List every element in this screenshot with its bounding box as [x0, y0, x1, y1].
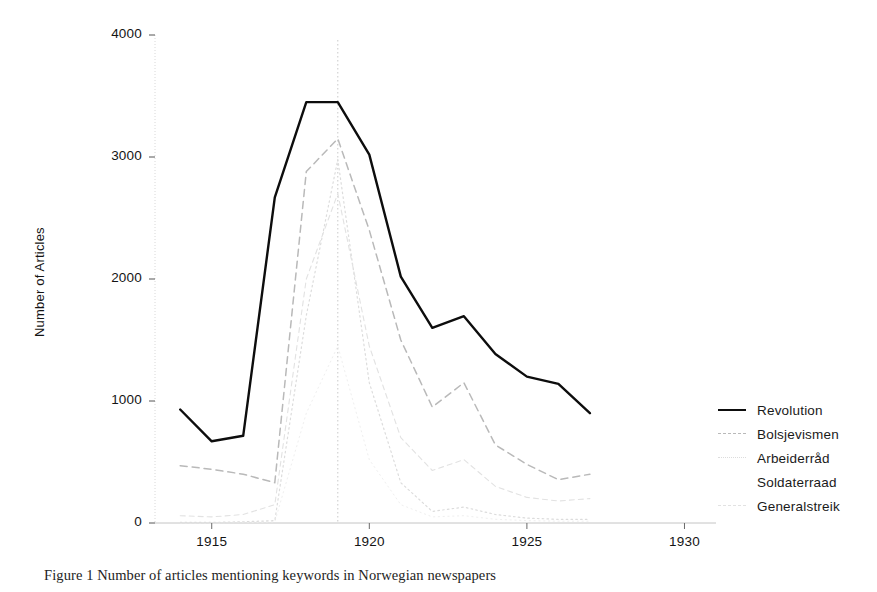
legend-label: Bolsjevismen [757, 427, 839, 442]
y-tick-label: 4000 [60, 26, 142, 41]
x-tick-label: 1925 [492, 534, 562, 549]
series-line-revolution [180, 102, 590, 441]
y-axis-label: Number of Articles [32, 227, 47, 337]
axis-ticks [149, 35, 684, 529]
y-tick-label: 0 [60, 514, 142, 529]
legend-swatch-icon [718, 404, 746, 416]
figure-caption: Figure 1 Number of articles mentioning k… [44, 566, 834, 592]
y-tick-label: 2000 [60, 270, 142, 285]
series-line-generalstreik [180, 194, 590, 517]
legend-label: Arbeiderråd [757, 451, 830, 466]
x-tick-label: 1930 [649, 534, 719, 549]
figure-container: Number of Articles 01000200030004000 191… [0, 0, 877, 592]
y-tick-label: 3000 [60, 148, 142, 163]
legend-label: Generalstreik [757, 499, 840, 514]
legend-item-soldaterraad[interactable]: Soldaterraad [718, 470, 874, 494]
legend-label: Revolution [757, 403, 823, 418]
legend-item-bolsjevismen[interactable]: Bolsjevismen [718, 422, 874, 446]
legend-swatch-icon [718, 476, 746, 488]
legend-swatch-icon [718, 428, 746, 440]
legend-item-revolution[interactable]: Revolution [718, 398, 874, 422]
chart-legend: RevolutionBolsjevismenArbeiderrådSoldate… [718, 398, 874, 518]
legend-item-generalstreik[interactable]: Generalstreik [718, 494, 874, 518]
x-tick-label: 1920 [334, 534, 404, 549]
y-tick-label: 1000 [60, 392, 142, 407]
series-lines [180, 102, 590, 523]
x-tick-label: 1915 [177, 534, 247, 549]
legend-label: Soldaterraad [757, 475, 837, 490]
legend-swatch-icon [718, 452, 746, 464]
axis-lines [155, 35, 716, 523]
legend-item-arbeiderrd[interactable]: Arbeiderråd [718, 446, 874, 470]
series-line-bolsjevismen [180, 139, 590, 483]
legend-swatch-icon [718, 500, 746, 512]
